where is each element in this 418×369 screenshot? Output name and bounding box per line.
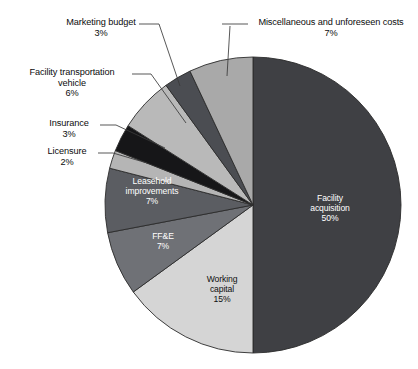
label-insurance-text: Insurance	[49, 118, 88, 128]
leader-line-marketing-budget	[139, 24, 180, 86]
label-working-capital-text2: capital	[191, 284, 253, 294]
label-licensure-value: 2%	[36, 157, 98, 168]
label-facility-transportation-value: 6%	[12, 88, 132, 99]
label-facility-acquisition: Facility acquisition 50%	[295, 193, 365, 223]
label-facility-acquisition-value: 50%	[295, 213, 365, 223]
label-insurance-value: 3%	[38, 129, 100, 140]
label-miscellaneous: Miscellaneous and unforeseen costs 7%	[248, 17, 414, 38]
label-working-capital: Working capital 15%	[191, 274, 253, 304]
label-leasehold-improvements: Leasehold improvements 7%	[112, 176, 192, 206]
label-licensure-text: Licensure	[48, 146, 87, 156]
label-marketing-budget-value: 3%	[62, 28, 140, 39]
label-leasehold-value: 7%	[112, 196, 192, 206]
label-facility-acquisition-text2: acquisition	[295, 203, 365, 213]
label-licensure: Licensure 2%	[36, 146, 98, 167]
label-leasehold-text1: Leasehold	[112, 176, 192, 186]
label-facility-transportation-text1: Facility transportation	[29, 67, 114, 77]
pie-chart-canvas	[0, 0, 418, 369]
label-marketing-budget: Marketing budget 3%	[62, 17, 140, 38]
label-facility-transportation-text2: vehicle	[12, 78, 132, 89]
label-insurance: Insurance 3%	[38, 118, 100, 139]
label-ffe: FF&E 7%	[132, 231, 194, 251]
label-miscellaneous-value: 7%	[248, 28, 414, 39]
label-working-capital-text1: Working	[191, 274, 253, 284]
label-leasehold-text2: improvements	[112, 186, 192, 196]
label-ffe-text: FF&E	[132, 231, 194, 241]
label-facility-transportation-vehicle: Facility transportation vehicle 6%	[12, 67, 132, 99]
pie-chart-figure: Marketing budget 3% Miscellaneous and un…	[0, 0, 418, 369]
label-working-capital-value: 15%	[191, 294, 253, 304]
label-facility-acquisition-text1: Facility	[295, 193, 365, 203]
label-ffe-value: 7%	[132, 241, 194, 251]
label-marketing-budget-text: Marketing budget	[66, 17, 135, 27]
label-miscellaneous-text: Miscellaneous and unforeseen costs	[258, 17, 403, 27]
